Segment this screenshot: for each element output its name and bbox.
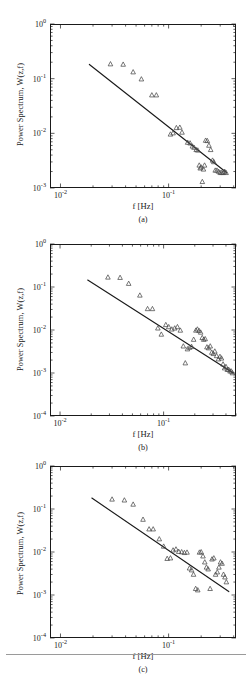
plot-area-a: 100 10-1 10-2 10-3 10-2 10-1 (50, 24, 236, 188)
y-axis-label-a: Power Spectrum, W(z,f) (14, 22, 28, 187)
y-axis-label-b: Power Spectrum, W(z,f) (14, 240, 28, 418)
footer-divider (6, 654, 246, 655)
y-axis-label-c: Power Spectrum, W(z,f) (14, 464, 28, 642)
y-tick-a-0: 100 (35, 20, 46, 29)
plot-area-c: 100 10-1 10-2 10-3 10-4 10-2 10-1 (50, 466, 236, 638)
panel-a: Power Spectrum, W(z,f) 100 10-1 10-2 10-… (0, 4, 252, 226)
x-axis-label-a: f [Hz] (50, 201, 236, 211)
y-tick-b-0: 100 (35, 240, 46, 249)
y-tick-a-2: 10-2 (33, 129, 46, 138)
y-tick-c-3: 10-3 (33, 591, 46, 600)
x-tick-c-0: 10-2 (54, 641, 67, 650)
x-tick-b-1: 10-1 (157, 419, 170, 428)
y-tick-b-4: 10-4 (33, 412, 46, 421)
scatter-plot-b (50, 244, 236, 416)
y-tick-a-3: 10-3 (33, 184, 46, 193)
y-tick-c-0: 100 (35, 462, 46, 471)
y-tick-c-1: 10-1 (33, 505, 46, 514)
x-axis-label-b: f [Hz] (50, 429, 236, 439)
y-tick-b-2: 10-2 (33, 326, 46, 335)
panel-b: Power Spectrum, W(z,f) 100 10-1 10-2 10-… (0, 228, 252, 450)
panel-caption-b: (b) (50, 443, 236, 452)
panel-c: Power Spectrum, W(z,f) 100 10-1 10-2 10-… (0, 452, 252, 674)
scatter-plot-c (50, 466, 236, 638)
y-tick-a-1: 10-1 (33, 74, 46, 83)
y-tick-c-2: 10-2 (33, 548, 46, 557)
x-tick-a-0: 10-2 (54, 191, 67, 200)
plot-area-b: 100 10-1 10-2 10-3 10-4 10-2 10-1 (50, 244, 236, 416)
x-axis-label-c: f [Hz] (50, 651, 236, 661)
panel-caption-c: (c) (50, 665, 236, 674)
x-tick-a-1: 10-1 (162, 191, 175, 200)
x-tick-c-1: 10-1 (162, 641, 175, 650)
panel-caption-a: (a) (50, 215, 236, 224)
y-tick-b-3: 10-3 (33, 369, 46, 378)
y-tick-b-1: 10-1 (33, 283, 46, 292)
x-tick-b-0: 10-2 (53, 419, 66, 428)
y-tick-c-4: 10-4 (33, 634, 46, 643)
scatter-plot-a (50, 24, 236, 188)
